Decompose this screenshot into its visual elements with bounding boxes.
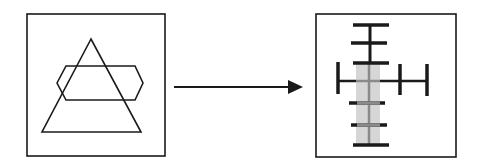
right-panel — [316, 14, 456, 157]
diagram-canvas — [0, 0, 480, 163]
hexagon-shape — [57, 66, 143, 100]
triangle-shape — [42, 39, 141, 132]
arrow-head-icon — [288, 80, 303, 94]
left-panel-frame — [27, 14, 165, 156]
transform-arrow — [174, 80, 303, 94]
left-panel — [27, 14, 165, 156]
